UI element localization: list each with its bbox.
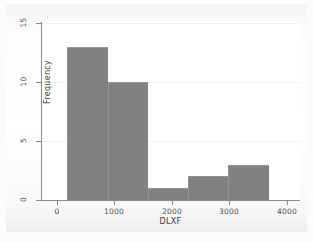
- x-tick-label-3000: 3000: [209, 207, 249, 216]
- bar-bin-1: [67, 47, 107, 200]
- x-tick-mark-0: [57, 200, 58, 205]
- x-tick-label-2000: 2000: [152, 207, 192, 216]
- y-tick-mark-10: [36, 82, 41, 83]
- y-axis-label: Frequency: [42, 47, 54, 117]
- x-tick-mark-3000: [229, 200, 230, 205]
- bar-bin-3: [148, 188, 188, 200]
- x-tick-mark-2000: [172, 200, 173, 205]
- x-axis-spine: [41, 200, 300, 201]
- x-tick-label-4000: 4000: [267, 207, 307, 216]
- bar-bin-5: [228, 165, 268, 200]
- x-axis-label: DLXF: [41, 217, 300, 226]
- bar-bin-4: [188, 176, 228, 200]
- bar-bin-2: [108, 82, 148, 200]
- gridline-15: [42, 23, 300, 24]
- histogram-plot: 15 10 5 0 0 1000 2000 3000 4000 DLXF Fre…: [0, 0, 313, 242]
- y-tick-label-15: 15: [19, 12, 28, 34]
- y-tick-label-5: 5: [19, 130, 28, 152]
- y-tick-mark-5: [36, 141, 41, 142]
- x-tick-mark-1000: [114, 200, 115, 205]
- x-tick-label-0: 0: [37, 207, 77, 216]
- x-tick-label-1000: 1000: [94, 207, 134, 216]
- x-tick-mark-4000: [287, 200, 288, 205]
- y-tick-label-0: 0: [19, 189, 28, 211]
- y-tick-mark-0: [36, 200, 41, 201]
- y-tick-label-10: 10: [19, 71, 28, 93]
- y-tick-mark-15: [36, 23, 41, 24]
- figure-canvas: 15 10 5 0 0 1000 2000 3000 4000 DLXF Fre…: [0, 0, 313, 242]
